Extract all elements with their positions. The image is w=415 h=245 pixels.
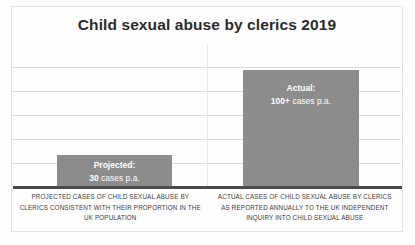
bar-value-projected: 30 <box>89 173 98 183</box>
slide-screenshot: Child sexual abuse by clerics 2019 Proje… <box>0 0 415 245</box>
bar-heading-projected: Projected: <box>57 159 172 172</box>
category-caption-actual: ACTUAL CASES OF CHILD SEXUAL ABUSE BY CL… <box>208 191 403 231</box>
bar-value-suffix-projected: cases p.a. <box>99 173 140 183</box>
caption-line: ACTUAL CASES OF CHILD SEXUAL ABUSE BY CL… <box>218 193 392 200</box>
bar-actual: Actual: 100+ cases p.a. <box>243 70 359 187</box>
category-captions: PROJECTED CASES OF CHILD SEXUAL ABUSE BY… <box>13 191 402 231</box>
bar-value-line-projected: 30 cases p.a. <box>57 172 172 185</box>
caption-line: PROJECTED CASES OF CHILD SEXUAL ABUSE BY <box>31 193 189 200</box>
bar-value-suffix-actual: cases p.a. <box>290 96 331 106</box>
axis-baseline <box>13 186 402 189</box>
bar-label-actual: Actual: 100+ cases p.a. <box>243 82 359 107</box>
bar-value-actual: 100+ <box>271 96 290 106</box>
bar-value-line-actual: 100+ cases p.a. <box>243 95 359 108</box>
caption-line: INQUIRY INTO CHILD SEXUAL ABUSE <box>246 214 363 221</box>
page-title: Child sexual abuse by clerics 2019 <box>11 14 403 36</box>
bar-projected: Projected: 30 cases p.a. <box>57 155 172 187</box>
category-caption-projected: PROJECTED CASES OF CHILD SEXUAL ABUSE BY… <box>13 191 208 231</box>
bar-label-projected: Projected: 30 cases p.a. <box>57 159 172 184</box>
bar-heading-actual: Actual: <box>243 82 359 95</box>
caption-line: CLERICS CONSISTENT WITH THEIR PROPORTION… <box>20 204 186 211</box>
category-divider <box>207 45 208 188</box>
caption-line: AS REPORTED ANNUALLY TO THE UK INDEPENDE… <box>221 204 388 211</box>
